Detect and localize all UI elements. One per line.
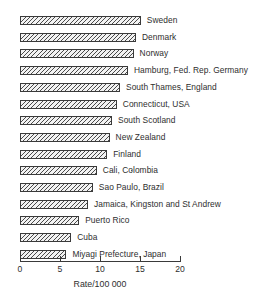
bar bbox=[20, 216, 79, 225]
bar-row: New Zealand bbox=[20, 133, 166, 142]
x-axis-tick bbox=[140, 256, 141, 262]
x-axis-tick-label: 0 bbox=[18, 264, 23, 274]
x-axis-tick bbox=[180, 256, 181, 262]
bar-chart: SwedenDenmarkNorwayHamburg, Fed. Rep. Ge… bbox=[0, 0, 262, 295]
bar-label: Sweden bbox=[147, 16, 178, 25]
bar-label: Denmark bbox=[142, 33, 176, 42]
bar-row: Jamaica, Kingston and St Andrew bbox=[20, 200, 221, 209]
bar-label: South Thames, England bbox=[126, 83, 217, 92]
bar bbox=[20, 200, 88, 209]
bar-label: Miyagi Prefecture, Japan bbox=[72, 250, 166, 259]
bar-row: Cali, Colombia bbox=[20, 166, 158, 175]
bar bbox=[20, 233, 71, 242]
bar bbox=[20, 49, 134, 58]
bar bbox=[20, 166, 97, 175]
x-axis-tick-label: 15 bbox=[135, 264, 145, 274]
x-axis-tick bbox=[100, 256, 101, 262]
x-axis-tick-label: 5 bbox=[58, 264, 63, 274]
bar bbox=[20, 66, 128, 75]
bar-row: Norway bbox=[20, 49, 168, 58]
bar-row: Denmark bbox=[20, 33, 176, 42]
x-axis-tick bbox=[60, 256, 61, 262]
bar-label: Finland bbox=[113, 150, 141, 159]
bar bbox=[20, 133, 110, 142]
bar bbox=[20, 150, 107, 159]
bar-row: Miyagi Prefecture, Japan bbox=[20, 250, 166, 259]
x-axis-tick-label: 20 bbox=[175, 264, 185, 274]
bar-label: Sao Paulo, Brazil bbox=[99, 183, 164, 192]
bar-label: Cuba bbox=[77, 233, 97, 242]
bar-label: Jamaica, Kingston and St Andrew bbox=[94, 200, 221, 209]
bar bbox=[20, 33, 136, 42]
bar-row: Cuba bbox=[20, 233, 97, 242]
bar-row: Connecticut, USA bbox=[20, 100, 190, 109]
x-axis-line bbox=[20, 261, 180, 262]
bar-row: South Scotland bbox=[20, 116, 176, 125]
x-axis-tick bbox=[20, 256, 21, 262]
bar bbox=[20, 83, 120, 92]
x-axis-tick-label: 10 bbox=[95, 264, 105, 274]
bar-row: Puerto Rico bbox=[20, 216, 130, 225]
bar-row: Sao Paulo, Brazil bbox=[20, 183, 164, 192]
bar bbox=[20, 16, 141, 25]
bar-label: New Zealand bbox=[116, 133, 166, 142]
bar-row: Sweden bbox=[20, 16, 177, 25]
bar-label: Hamburg, Fed. Rep. Germany bbox=[134, 66, 248, 75]
bar-row: South Thames, England bbox=[20, 83, 217, 92]
x-axis-title: Rate/100 000 bbox=[20, 279, 180, 290]
bar-label: South Scotland bbox=[118, 116, 176, 125]
bar-row: Hamburg, Fed. Rep. Germany bbox=[20, 66, 248, 75]
bar-label: Puerto Rico bbox=[85, 216, 129, 225]
bar-label: Connecticut, USA bbox=[123, 100, 190, 109]
bar bbox=[20, 116, 112, 125]
stray-mark bbox=[131, 170, 132, 171]
bar bbox=[20, 100, 117, 109]
bar-label: Norway bbox=[140, 49, 169, 58]
bar-row: Finland bbox=[20, 150, 141, 159]
bar bbox=[20, 183, 93, 192]
